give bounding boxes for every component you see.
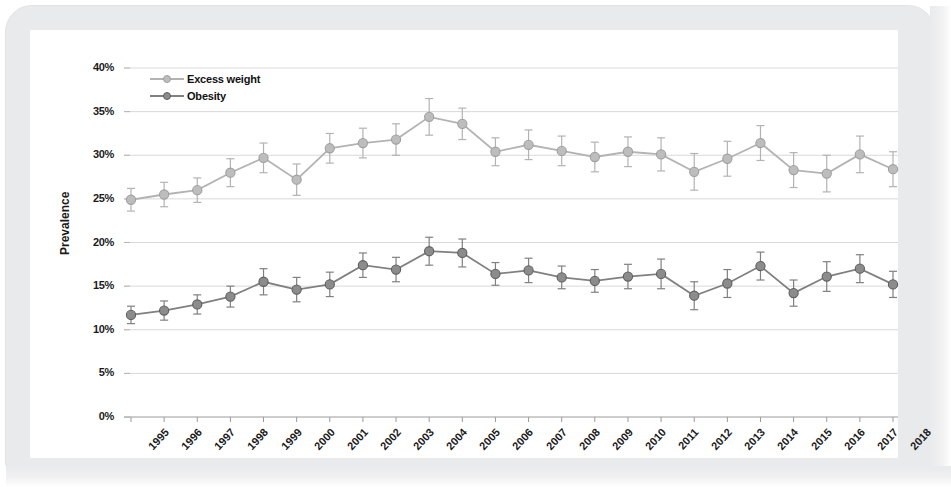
legend-marker-icon (150, 90, 184, 102)
legend-item: Obesity (150, 87, 260, 104)
y-axis-tick-label: 15% (72, 279, 114, 291)
chart-page: 0%5%10%15%20%25%30%35%40% Prevalence 199… (0, 0, 951, 487)
y-axis-tick-label: 40% (72, 61, 114, 73)
legend-label: Excess weight (187, 73, 260, 85)
y-axis-title: Prevalence (58, 192, 72, 255)
legend-label: Obesity (187, 90, 226, 102)
y-axis-tick-label: 25% (72, 192, 114, 204)
y-axis-tick-label: 10% (72, 323, 114, 335)
y-axis-tick-label: 30% (72, 148, 114, 160)
page-frame-bottom-edge (6, 466, 951, 487)
y-axis-tick-label: 5% (72, 366, 114, 378)
page-frame-right-edge (930, 6, 951, 487)
y-axis-tick-label: 0% (72, 410, 114, 422)
y-axis-tick-label: 35% (72, 105, 114, 117)
chart-legend: Excess weightObesity (150, 70, 260, 104)
y-axis-tick-label: 20% (72, 236, 114, 248)
legend-item: Excess weight (150, 70, 260, 87)
legend-marker-icon (150, 73, 184, 85)
